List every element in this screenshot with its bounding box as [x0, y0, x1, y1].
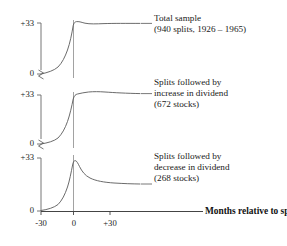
x-tick-label-minus30: -30 [27, 218, 55, 228]
caption-dividend-decrease: Splits followed by decrease in dividend … [154, 151, 230, 185]
series-line-dividend-decrease [41, 161, 140, 211]
caption-dividend-decrease-line3: (268 stocks) [154, 173, 230, 184]
panel-middle [37, 92, 140, 149]
axis-break-icon-middle [39, 140, 44, 149]
y-tick-label-middle-0: 0 [10, 138, 34, 148]
y-axis-bottom-panel [37, 158, 41, 211]
y-tick-label-middle-33: +33 [10, 89, 34, 99]
x-tick-label-plus30: +30 [96, 218, 124, 228]
y-tick-label-top-33: +33 [10, 18, 34, 28]
y-axis-middle-panel [37, 95, 41, 139]
caption-dividend-increase-line3: (672 stocks) [154, 99, 228, 110]
series-line-dividend-increase [41, 92, 140, 144]
x-tick-label-zero: 0 [60, 218, 88, 228]
caption-dividend-increase: Splits followed by increase in dividend … [154, 77, 228, 111]
y-tick-label-top-0: 0 [10, 68, 34, 78]
axis-break-icon-top [39, 70, 44, 79]
x-axis-title: Months relative to split [205, 206, 287, 216]
panel-top [37, 20, 140, 79]
y-tick-label-bottom-0: 0 [10, 205, 34, 215]
caption-dividend-increase-line1: Splits followed by [154, 77, 228, 88]
caption-dividend-decrease-line1: Splits followed by [154, 151, 230, 162]
y-tick-label-bottom-33: +33 [10, 152, 34, 162]
caption-dividend-decrease-line2: decrease in dividend [154, 162, 230, 173]
caption-total-sample-line2: (940 splits, 1926 – 1965) [154, 24, 246, 35]
series-line-total-sample [41, 22, 140, 74]
y-axis-top-panel [37, 23, 41, 68]
caption-dividend-increase-line2: increase in dividend [154, 88, 228, 99]
stock-split-returns-figure: +33 0 +33 0 +33 0 -30 0 +30 Total sample… [0, 0, 287, 246]
caption-total-sample: Total sample (940 splits, 1926 – 1965) [154, 13, 246, 35]
caption-total-sample-line1: Total sample [154, 13, 246, 24]
